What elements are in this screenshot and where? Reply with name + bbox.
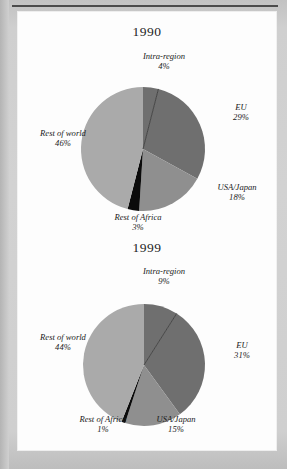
slice-label-rest-of-world-1990: Rest of world 46% [20, 128, 106, 149]
clipped-heading-text [18, 0, 276, 2]
slice-label-rest-of-africa-1990: Rest of Africa 3% [92, 212, 184, 233]
slice-label-rest-of-africa-1999: Rest of Africa 1% [60, 414, 146, 435]
pie-chart-1999: 1999 Intra-region 9% EU 31% USA/Japan 15… [18, 240, 276, 445]
slice-label-eu-1999: EU 31% [215, 340, 269, 361]
slice-label-intra-region-1999: Intra-region 9% [114, 266, 214, 287]
slice-label-rest-of-world-1999: Rest of world 44% [20, 332, 106, 353]
slice-label-eu-1990: EU 29% [214, 102, 268, 123]
figure-panel: 1990 Intra-region 4% EU 29% USA/Japan 18… [18, 12, 276, 450]
pie-chart-1990: 1990 Intra-region 4% EU 29% USA/Japan 18… [18, 24, 276, 232]
slice-label-usa-japan-1999: USA/Japan 15% [142, 414, 210, 435]
page-header-rule [12, 5, 278, 7]
slice-label-intra-region-1990: Intra-region 4% [114, 51, 214, 72]
slice-label-usa-japan-1990: USA/Japan 18% [203, 182, 271, 203]
